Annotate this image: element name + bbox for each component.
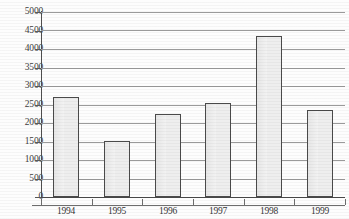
- gridline: [41, 123, 345, 124]
- gridline: [41, 30, 345, 31]
- x-axis-tick-label: 1999: [297, 206, 343, 217]
- gridline: [41, 12, 345, 13]
- gridline: [41, 68, 345, 69]
- x-axis-tick-label: 1997: [195, 206, 241, 217]
- x-axis-tick-mark: [193, 199, 194, 205]
- gridline: [41, 105, 345, 106]
- x-axis-tick-mark: [345, 199, 346, 205]
- x-axis-tick-mark: [92, 199, 93, 205]
- x-axis-tick-mark: [142, 199, 143, 205]
- plot-area: [41, 12, 345, 197]
- x-axis-tick-label: 1995: [94, 206, 140, 217]
- gridline: [41, 86, 345, 87]
- bar: [155, 114, 181, 197]
- bar-chart: 5000 4500 4000 3500 3000 2500 2000 1500 …: [0, 0, 349, 219]
- bar: [256, 36, 282, 197]
- bar: [104, 141, 130, 197]
- bar: [307, 110, 333, 197]
- gridline: [41, 160, 345, 161]
- x-axis-tick-mark: [244, 199, 245, 205]
- gridline-baseline: [41, 197, 345, 198]
- bar: [53, 97, 79, 197]
- x-axis-tick-label: 1994: [43, 206, 89, 217]
- x-axis-tick-label: 1996: [145, 206, 191, 217]
- bar: [205, 103, 231, 197]
- gridline: [41, 142, 345, 143]
- x-axis-tick-label: 1998: [246, 206, 292, 217]
- gridline: [41, 179, 345, 180]
- x-axis-tick-mark: [41, 199, 42, 205]
- x-axis-tick-mark: [294, 199, 295, 205]
- gridline: [41, 49, 345, 50]
